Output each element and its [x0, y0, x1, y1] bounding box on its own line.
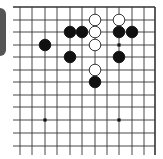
black-stone: [126, 26, 138, 38]
white-stone: [89, 39, 101, 51]
black-stone: [89, 76, 101, 88]
stones: [39, 14, 138, 88]
star-point: [117, 118, 120, 121]
black-stone: [64, 51, 76, 63]
white-stone: [89, 26, 101, 38]
white-stone: [89, 64, 101, 76]
go-board: [0, 0, 163, 159]
star-point: [43, 118, 46, 121]
star-point: [117, 43, 120, 46]
white-stone: [89, 14, 101, 26]
black-stone: [113, 51, 125, 63]
black-stone: [64, 26, 76, 38]
black-stone: [39, 39, 51, 51]
white-stone: [113, 14, 125, 26]
black-stone: [76, 26, 88, 38]
black-stone: [113, 26, 125, 38]
